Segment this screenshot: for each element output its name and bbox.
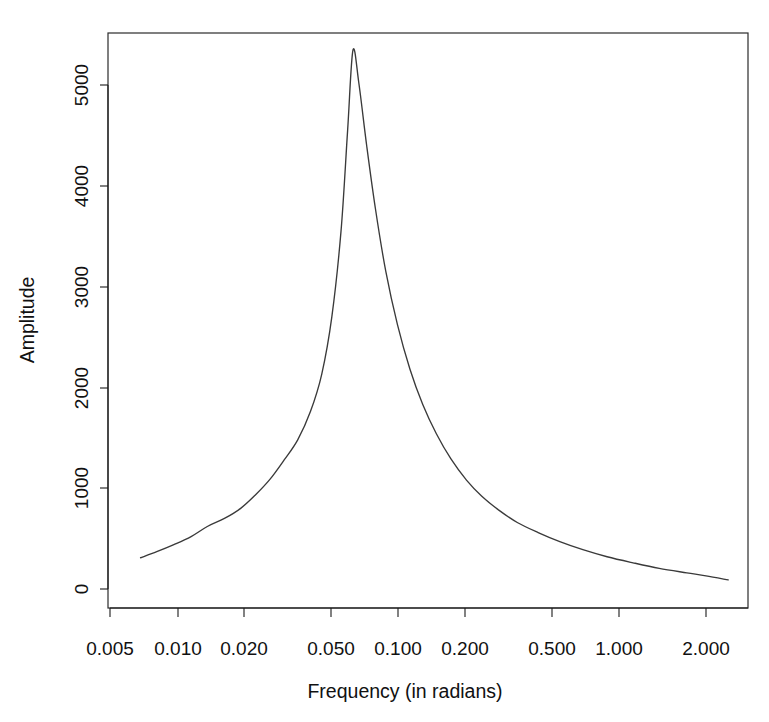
y-tick-marks <box>100 85 108 589</box>
x-tick-label: 0.020 <box>220 638 268 659</box>
plot-frame <box>108 33 748 608</box>
x-tick-label: 0.050 <box>307 638 355 659</box>
x-tick-labels: 0.005 0.010 0.020 0.050 0.100 0.200 0.50… <box>86 638 730 659</box>
y-tick-labels: 0 1000 2000 3000 4000 5000 <box>71 64 92 594</box>
x-tick-label: 0.500 <box>528 638 576 659</box>
x-tick-label: 0.005 <box>86 638 134 659</box>
x-tick-label: 0.010 <box>154 638 202 659</box>
y-axis-title: Amplitude <box>16 277 38 364</box>
y-tick-label: 0 <box>71 584 92 595</box>
spectrum-series-line <box>141 49 729 580</box>
periodogram-plot: 0 1000 2000 3000 4000 5000 0.005 0.010 0… <box>0 0 769 722</box>
y-tick-label: 1000 <box>71 467 92 509</box>
chart-figure: 0 1000 2000 3000 4000 5000 0.005 0.010 0… <box>0 0 769 722</box>
y-tick-label: 2000 <box>71 367 92 409</box>
x-tick-label: 0.200 <box>441 638 489 659</box>
x-tick-label: 2.000 <box>682 638 730 659</box>
y-tick-label: 4000 <box>71 165 92 207</box>
y-tick-label: 5000 <box>71 64 92 106</box>
x-tick-label: 1.000 <box>595 638 643 659</box>
x-tick-marks <box>110 608 706 617</box>
y-tick-label: 3000 <box>71 266 92 308</box>
x-axis-title: Frequency (in radians) <box>307 680 502 702</box>
x-tick-label: 0.100 <box>374 638 422 659</box>
